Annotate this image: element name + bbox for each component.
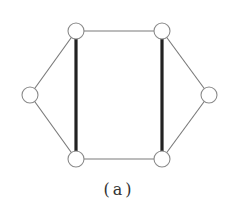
edge-top-right-right bbox=[162, 31, 209, 95]
node-right bbox=[201, 87, 217, 103]
node-left bbox=[22, 87, 38, 103]
node-top-right bbox=[154, 23, 170, 39]
node-top-left bbox=[68, 23, 84, 39]
edges-group bbox=[30, 31, 209, 159]
node-bottom-left bbox=[68, 151, 84, 167]
figure-caption: (a) bbox=[0, 180, 232, 199]
edge-left-bottom-left bbox=[30, 95, 76, 159]
node-bottom-right bbox=[154, 151, 170, 167]
graph-diagram bbox=[0, 0, 232, 210]
nodes-group bbox=[22, 23, 217, 167]
edge-bottom-right-right bbox=[162, 95, 209, 159]
edge-left-top-left bbox=[30, 31, 76, 95]
